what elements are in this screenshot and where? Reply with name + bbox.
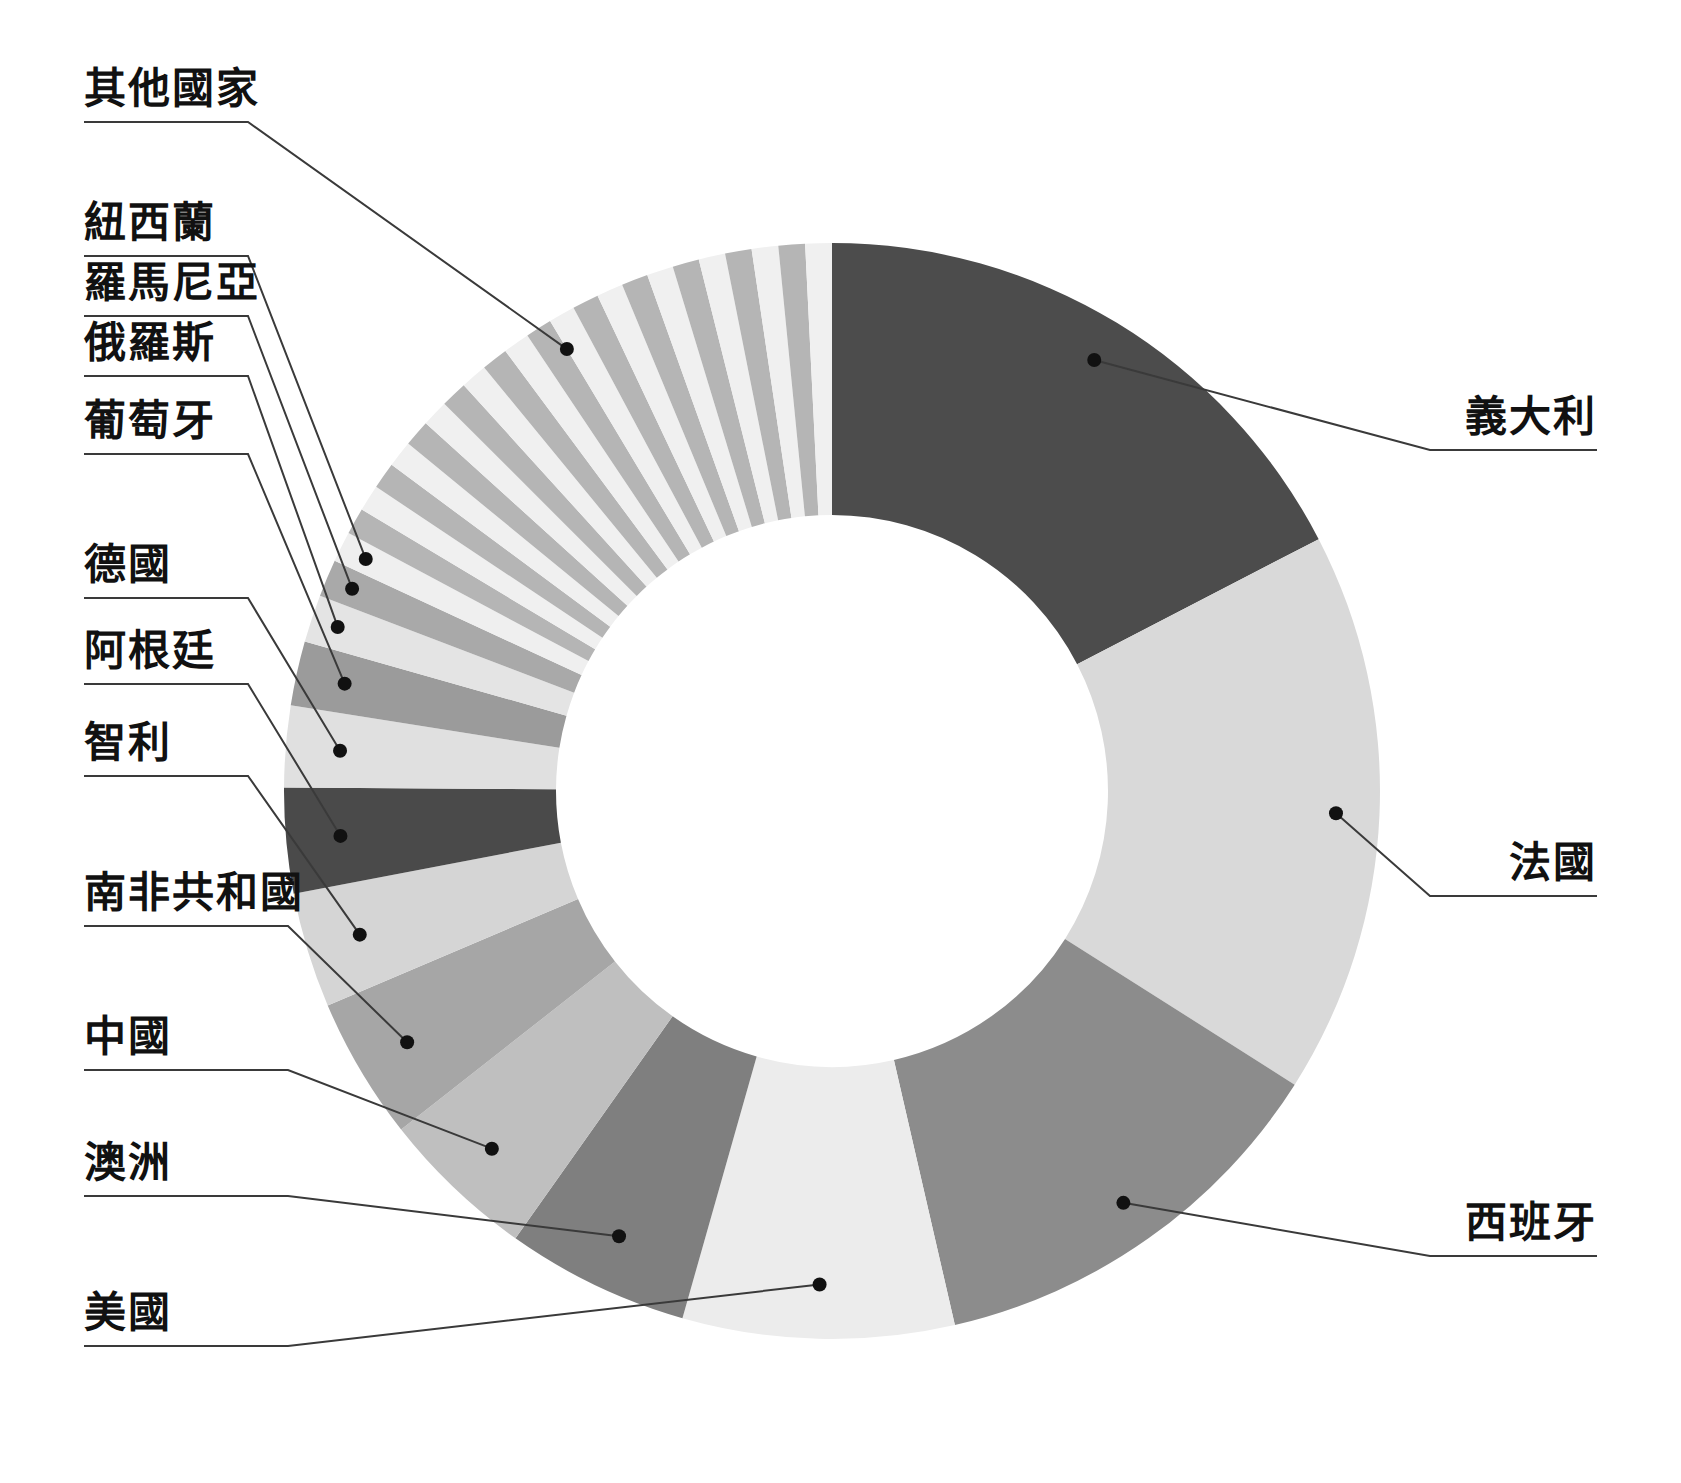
label-germany: 德國: [84, 544, 172, 586]
label-new-zealand: 紐西蘭: [84, 202, 216, 244]
leader-dot-south_africa: [400, 1035, 414, 1049]
leader-dot-portugal: [338, 677, 352, 691]
label-australia: 澳洲: [84, 1142, 172, 1184]
label-argentina: 阿根廷: [84, 630, 216, 672]
label-romania: 羅馬尼亞: [84, 262, 260, 304]
leader-dot-russia: [331, 620, 345, 634]
chart-canvas: 其他國家 紐西蘭 羅馬尼亞 俄羅斯 葡萄牙 德國 阿根廷 智利 南非共和國 中國…: [0, 0, 1681, 1483]
donut-chart: [0, 0, 1681, 1483]
label-portugal: 葡萄牙: [84, 400, 216, 442]
label-spain: 西班牙: [1465, 1202, 1597, 1244]
leader-dot-australia: [612, 1229, 626, 1243]
label-usa: 美國: [84, 1292, 172, 1334]
leader-dot-argentina: [333, 829, 347, 843]
leader-dot-other: [560, 342, 574, 356]
leader-dot-germany: [333, 744, 347, 758]
label-south-africa: 南非共和國: [84, 872, 304, 914]
label-russia: 俄羅斯: [84, 322, 216, 364]
label-china: 中國: [84, 1016, 172, 1058]
label-italy: 義大利: [1465, 396, 1597, 438]
leader-dot-chile: [353, 928, 367, 942]
leader-dot-france: [1329, 806, 1343, 820]
leader-dot-italy: [1087, 353, 1101, 367]
donut-slices: [284, 243, 1380, 1339]
leader-dot-new_zealand: [359, 552, 373, 566]
leader-dot-usa: [813, 1277, 827, 1291]
leader-dot-china: [485, 1142, 499, 1156]
leader-dot-romania: [345, 582, 359, 596]
label-france: 法國: [1509, 842, 1597, 884]
label-chile: 智利: [84, 722, 172, 764]
leader-dot-spain: [1116, 1196, 1130, 1210]
label-other-countries: 其他國家: [84, 68, 260, 110]
